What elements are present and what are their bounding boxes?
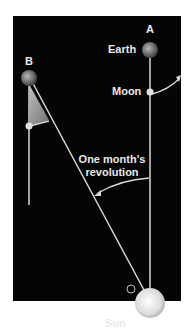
earth-sun-line-b xyxy=(29,76,144,290)
earth-b-icon xyxy=(21,70,37,86)
label-sun: Sun xyxy=(105,318,126,329)
revolution-caption-line1: One month's xyxy=(76,153,148,166)
label-moon: Moon xyxy=(112,86,141,97)
angle-marker-icon xyxy=(127,285,135,293)
earth-a-icon xyxy=(142,42,158,58)
revolution-caption-line2: revolution xyxy=(76,166,148,179)
revolution-arrow-path xyxy=(98,178,149,193)
moon-b-icon xyxy=(26,123,33,130)
label-b: B xyxy=(25,56,33,67)
revolution-arrowhead xyxy=(94,190,101,196)
angle-wedge xyxy=(29,84,49,126)
revolution-caption: One month's revolution xyxy=(76,153,148,179)
label-earth: Earth xyxy=(108,44,136,55)
label-a: A xyxy=(146,24,154,35)
moon-a-icon xyxy=(147,89,154,96)
sun-icon xyxy=(135,288,165,318)
moon-orbit-arc xyxy=(152,78,180,94)
